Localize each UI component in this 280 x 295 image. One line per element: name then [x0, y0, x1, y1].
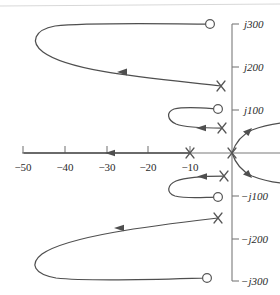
- branch-origin-upper: [232, 123, 280, 153]
- y-tick-label-4: −j200: [241, 233, 268, 245]
- y-tick-label-1: j200: [242, 61, 264, 73]
- arrow-lower-outer: [114, 225, 124, 232]
- zero-upper-inner: [214, 105, 223, 114]
- zero-markers: [203, 20, 223, 283]
- zero-lower-inner: [214, 193, 223, 202]
- x-tick-label-2: −30: [98, 161, 116, 173]
- x-tick-label-1: −40: [56, 161, 74, 173]
- y-tick-label-5: −j300: [241, 275, 268, 287]
- root-locus-canvas: −50 −40 −30 −20 −10 j300 j200 j100 −j100…: [0, 0, 280, 295]
- y-tick-label-0: j300: [242, 18, 264, 30]
- branch-lower-outer-loop: [35, 218, 218, 280]
- branch-upper-outer-loop: [36, 24, 221, 87]
- arrow-upper-inner: [196, 125, 206, 132]
- x-tick-label-0: −50: [14, 161, 32, 173]
- y-tick-label-3: −j100: [241, 190, 268, 202]
- pole-markers: [186, 81, 236, 223]
- arrow-lower-inner: [197, 173, 207, 180]
- root-locus-figure: −50 −40 −30 −20 −10 j300 j200 j100 −j100…: [0, 0, 280, 295]
- x-tick-label-4: −10: [181, 161, 199, 173]
- real-axis-ticks: [23, 146, 190, 153]
- x-tick-labels: −50 −40 −30 −20 −10: [14, 161, 199, 173]
- x-tick-label-3: −20: [139, 161, 157, 173]
- zero-lower-outer: [203, 274, 212, 283]
- scan-artifact-line: [0, 4, 280, 6]
- branch-origin-lower: [232, 153, 280, 183]
- y-tick-label-2: j100: [242, 104, 264, 116]
- zero-upper-outer: [206, 20, 215, 29]
